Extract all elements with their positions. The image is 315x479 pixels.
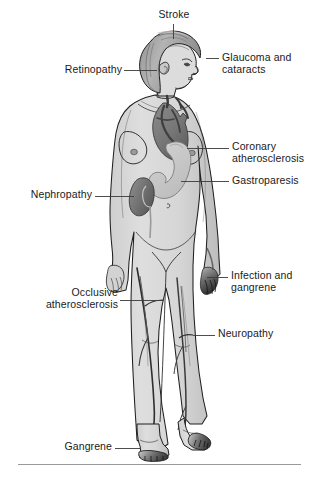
callout-label-line1: Glaucoma and [222,51,292,63]
callout-label-retinopathy: Retinopathy [46,64,122,76]
head-profile [140,31,201,96]
callout-label-line1: Stroke [159,8,190,20]
bottom-divider-rule [18,464,301,465]
callout-label-line2: gangrene [231,282,314,294]
callout-label-line2: atherosclerosis [232,153,314,165]
callout-label-coronary-atherosclerosis: Coronaryatherosclerosis [232,141,314,164]
callout-label-stroke: Stroke [148,9,200,21]
callout-label-line1: Gangrene [64,440,112,452]
callout-label-line2: cataracts [222,64,314,76]
lower-legs-and-feet [137,418,211,462]
diabetes-complications-figure: StrokeGlaucoma andcataractsRetinopathyCo… [0,0,315,479]
callout-label-line1: Gastroparesis [232,174,299,186]
callout-label-line1: Coronary [232,140,276,152]
callout-label-line1: Nephropathy [31,188,92,200]
callout-label-gastroparesis: Gastroparesis [232,175,314,187]
callout-label-line1: Infection and [231,269,292,281]
callout-label-line1: Occlusive [72,286,118,298]
callout-label-nephropathy: Nephropathy [8,189,92,201]
callout-label-line1: Retinopathy [65,63,122,75]
callout-label-neuropathy: Neuropathy [218,328,308,340]
callout-label-occlusive-atherosclerosis: Occlusiveatherosclerosis [10,287,118,310]
callout-label-glaucoma-and-cataracts: Glaucoma andcataracts [222,52,314,75]
callout-label-line2: atherosclerosis [10,299,118,311]
callout-label-infection-and-gangrene: Infection andgangrene [231,270,314,293]
callout-label-line1: Neuropathy [218,327,273,339]
callout-label-gangrene: Gangrene [46,441,112,453]
